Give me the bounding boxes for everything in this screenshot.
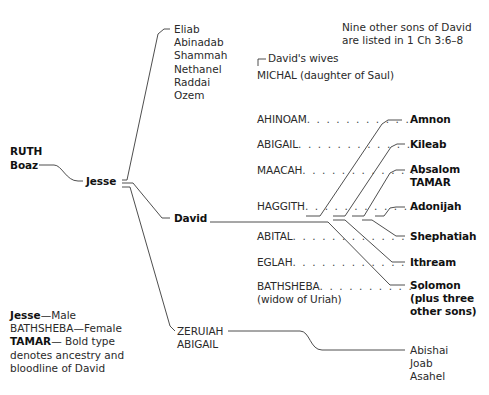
legend: Jesse—Male BATHSHEBA—Female TAMAR— Bold … <box>10 309 124 375</box>
wife-name: EGLAH <box>257 256 292 268</box>
legend-female-sample: BATHSHEBA <box>10 322 73 334</box>
jesse-to-david-line <box>122 183 170 218</box>
legend-bold-desc-3: bloodline of David <box>10 362 124 375</box>
wife-abital: ABITAL. . . . . . . . . . . . . . . <box>257 230 436 243</box>
legend-bold-desc: — Bold type <box>51 335 115 347</box>
wife-haggith: HAGGITH. . . . . . . . . . . . . <box>257 200 428 213</box>
wife-name: HAGGITH <box>257 200 305 212</box>
son-raddai: Raddai <box>174 76 227 89</box>
bathsheba-subtitle: (widow of Uriah) <box>257 293 342 306</box>
son-eliab: Eliab <box>174 23 227 36</box>
child-adonijah: Adonijah <box>410 200 461 213</box>
child-absalom: Absalom <box>410 163 460 176</box>
son-abishai: Abishai <box>410 344 448 357</box>
wife-maacah: MAACAH. . . . . . . . . . . . . <box>257 164 426 177</box>
wives-header-bracket <box>258 59 266 66</box>
leader-dots: . . . . . . . . . . . <box>320 280 424 292</box>
child-ithream: Ithream <box>410 256 456 269</box>
legend-bold-sample: TAMAR <box>10 335 51 347</box>
ancestor-ruth: RUTH <box>10 145 42 158</box>
child-shephatiah: Shephatiah <box>410 230 476 243</box>
boaz-jesse-line <box>39 165 83 181</box>
legend-female: BATHSHEBA—Female <box>10 322 124 335</box>
jesse-other-sons-list: Eliab Abinadab Shammah Nethanel Raddai O… <box>174 23 227 102</box>
leader-dots: . . . . . . . . . . . . . <box>302 164 425 176</box>
legend-bold: TAMAR— Bold type <box>10 335 124 348</box>
child-tamar: TAMAR <box>410 176 451 189</box>
zeruiah-abishai-line <box>228 331 405 350</box>
note-line-2: are listed in 1 Ch 3:6–8 <box>342 34 472 47</box>
legend-bold-desc-2: denotes ancestry and <box>10 349 124 362</box>
wife-michal: MICHAL (daughter of Saul) <box>257 69 394 82</box>
wife-name: MICHAL (daughter of Saul) <box>257 69 394 81</box>
leader-dots: . . . . . . . . . . . <box>307 113 411 125</box>
note-other-sons: Nine other sons of David are listed in 1… <box>342 21 472 47</box>
child-solomon: Solomon <box>410 279 461 292</box>
zeruiah-sons-list: Abishai Joab Asahel <box>410 344 448 384</box>
solomon-note-1: (plus three <box>410 292 474 305</box>
legend-male-desc: —Male <box>41 309 76 321</box>
wife-ahinoam: AHINOAM. . . . . . . . . . . <box>257 113 410 126</box>
son-ozem: Ozem <box>174 89 227 102</box>
node-david: David <box>174 212 207 225</box>
son-asahel: Asahel <box>410 370 448 383</box>
legend-male: Jesse—Male <box>10 309 124 322</box>
son-joab: Joab <box>410 357 448 370</box>
daughter-zeruiah: ZERUIAH <box>177 325 223 338</box>
solomon-note-2: other sons) <box>410 305 477 318</box>
son-shammah: Shammah <box>174 49 227 62</box>
ancestor-boaz: Boaz <box>10 159 38 172</box>
note-line-1: Nine other sons of David <box>342 21 472 34</box>
leader-dots: . . . . . . . . . . . . . <box>298 138 421 150</box>
wife-name: ABITAL <box>257 230 293 242</box>
legend-male-sample: Jesse <box>10 309 41 321</box>
wife-name: AHINOAM <box>257 113 307 125</box>
wives-header: David's wives <box>268 52 338 65</box>
wife-name: ABIGAIL <box>257 138 298 150</box>
child-amnon: Amnon <box>410 113 451 126</box>
legend-female-desc: —Female <box>73 322 121 334</box>
jesse-to-zeruiah-line <box>122 187 175 331</box>
wife-name: MAACAH <box>257 164 302 176</box>
son-nethanel: Nethanel <box>174 63 227 76</box>
wife-bathsheba: BATHSHEBA. . . . . . . . . . . <box>257 280 423 293</box>
daughter-abigail: ABIGAIL <box>177 338 218 351</box>
son-abinadab: Abinadab <box>174 36 227 49</box>
jesse-to-eliab-line <box>122 29 170 180</box>
wife-abigail: ABIGAIL. . . . . . . . . . . . . <box>257 138 422 151</box>
node-jesse: Jesse <box>86 175 116 188</box>
child-kileab: Kileab <box>410 138 446 151</box>
wife-name: BATHSHEBA <box>257 280 320 292</box>
